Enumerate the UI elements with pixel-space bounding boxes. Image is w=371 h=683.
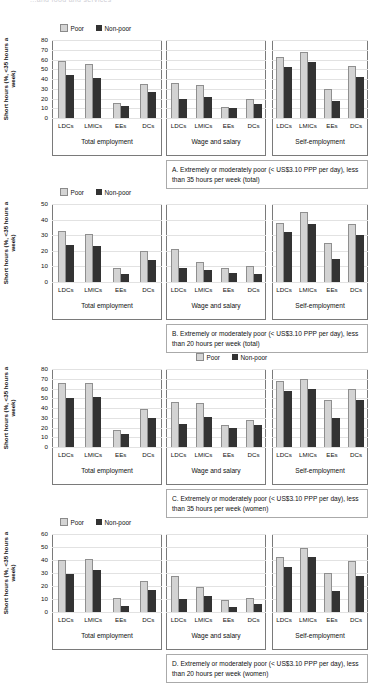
legend: PoorNon-poor xyxy=(60,24,131,32)
bar-non-poor-dcs xyxy=(356,77,364,118)
legend-label: Poor xyxy=(207,354,221,361)
group-axis-title: Wage and salary xyxy=(166,302,266,309)
group-axis-title: Total employment xyxy=(52,632,162,639)
legend-swatch-icon xyxy=(196,353,204,361)
legend-swatch-icon xyxy=(96,25,102,31)
group-axis-title: Self-employment xyxy=(272,632,368,639)
x-tick-label-dcs: DCs xyxy=(135,451,163,458)
legend-swatch-icon xyxy=(96,519,102,525)
bar-series-container xyxy=(52,369,162,447)
x-tick-label-lmics: LMICs xyxy=(191,616,216,623)
bar-poor-dcs xyxy=(140,581,148,612)
bar-poor-dcs xyxy=(140,409,148,447)
x-axis-labels: LDCsLMICsEEsDCs xyxy=(166,616,266,623)
bar-non-poor-lmics xyxy=(308,557,316,612)
group-axis-title: Total employment xyxy=(52,467,162,474)
legend-label: Non-poor xyxy=(105,519,132,526)
bar-cluster xyxy=(320,40,344,118)
gridline xyxy=(166,118,266,119)
x-tick-label-dcs: DCs xyxy=(344,286,368,293)
group-axis-title: Wage and salary xyxy=(166,632,266,639)
bar-series-container xyxy=(272,204,368,282)
bar-poor-lmics xyxy=(196,262,204,282)
bar-series-container xyxy=(52,40,162,118)
y-tick-label: 30 xyxy=(41,570,48,576)
bar-poor-ldcs xyxy=(58,560,66,612)
bar-non-poor-ldcs xyxy=(179,268,187,282)
x-tick-label-ees: EEs xyxy=(320,616,344,623)
bar-poor-lmics xyxy=(196,85,204,118)
legend-item-non-poor: Non-poor xyxy=(96,519,131,526)
bar-poor-lmics xyxy=(196,403,204,447)
bar-non-poor-ldcs xyxy=(284,232,292,282)
bar-poor-lmics xyxy=(300,379,308,447)
bar-non-poor-dcs xyxy=(254,274,262,282)
bar-series-container xyxy=(166,204,266,282)
x-axis-labels: LDCsLMICsEEsDCs xyxy=(166,451,266,458)
bar-non-poor-ees xyxy=(332,259,340,282)
y-tick-label: 60 xyxy=(41,386,48,392)
bar-cluster xyxy=(52,204,80,282)
bar-poor-ees xyxy=(113,103,121,118)
group-axis-title: Total employment xyxy=(52,138,162,145)
bar-poor-ees xyxy=(113,268,121,282)
x-tick-label-ldcs: LDCs xyxy=(272,451,296,458)
x-axis-labels: LDCsLMICsEEsDCs xyxy=(272,451,368,458)
x-tick-label-ldcs: LDCs xyxy=(52,122,80,129)
bar-non-poor-lmics xyxy=(308,389,316,448)
bar-non-poor-dcs xyxy=(254,104,262,118)
bar-series-container xyxy=(166,40,266,118)
x-tick-label-lmics: LMICs xyxy=(80,122,108,129)
bar-non-poor-ldcs xyxy=(66,245,74,282)
x-tick-label-ldcs: LDCs xyxy=(272,616,296,623)
legend-item-non-poor: Non-poor xyxy=(96,25,131,32)
x-tick-label-ees: EEs xyxy=(320,122,344,129)
bar-cluster xyxy=(320,204,344,282)
bar-cluster xyxy=(191,534,216,612)
bar-cluster xyxy=(191,40,216,118)
bar-cluster xyxy=(241,369,266,447)
x-tick-label-dcs: DCs xyxy=(135,122,163,129)
bar-cluster xyxy=(166,534,191,612)
y-tick-label: 30 xyxy=(41,232,48,238)
y-tick-label: 50 xyxy=(41,395,48,401)
bar-cluster xyxy=(296,369,320,447)
x-tick-label-ldcs: LDCs xyxy=(272,122,296,129)
bar-cluster xyxy=(344,204,368,282)
x-tick-label-dcs: DCs xyxy=(241,286,266,293)
legend-item-non-poor: Non-poor xyxy=(232,354,267,361)
x-tick-label-ldcs: LDCs xyxy=(272,286,296,293)
bar-non-poor-ees xyxy=(121,434,129,447)
bar-non-poor-dcs xyxy=(356,576,364,612)
bar-non-poor-dcs xyxy=(254,425,262,447)
x-tick-label-dcs: DCs xyxy=(241,616,266,623)
bar-poor-lmics xyxy=(85,234,93,282)
bar-poor-lmics xyxy=(196,587,204,612)
bar-cluster xyxy=(272,40,296,118)
plot-area xyxy=(166,534,266,612)
gridline xyxy=(52,118,162,119)
gridline xyxy=(52,447,162,448)
x-tick-label-dcs: DCs xyxy=(241,451,266,458)
legend-label: Non-poor xyxy=(105,189,132,196)
bar-cluster xyxy=(107,534,135,612)
bar-cluster xyxy=(241,40,266,118)
x-tick-label-dcs: DCs xyxy=(344,122,368,129)
bar-non-poor-lmics xyxy=(204,97,212,118)
bar-poor-ldcs xyxy=(171,83,179,118)
bar-poor-dcs xyxy=(348,389,356,447)
bar-cluster xyxy=(320,369,344,447)
legend-item-poor: Poor xyxy=(60,24,84,32)
chart-panel-c: Short hours (%, <35 hours aweek)01020304… xyxy=(0,347,371,512)
bar-non-poor-ees xyxy=(332,101,340,118)
y-tick-label: 0 xyxy=(45,115,48,121)
bar-non-poor-dcs xyxy=(148,260,156,282)
bar-poor-dcs xyxy=(246,99,254,118)
bar-poor-lmics xyxy=(85,559,93,612)
plot-area xyxy=(166,40,266,118)
bar-non-poor-lmics xyxy=(204,596,212,612)
legend-label: Non-poor xyxy=(241,354,268,361)
x-tick-label-ees: EEs xyxy=(320,286,344,293)
group-axis-title: Self-employment xyxy=(272,138,368,145)
bar-cluster xyxy=(296,40,320,118)
